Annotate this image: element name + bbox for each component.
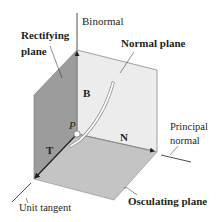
osculating-plane-label: Osculating plane — [128, 196, 207, 207]
principal-normal-label-line1: Principal — [170, 122, 208, 133]
rectifying-plane-label-line1: Rectifying — [21, 30, 69, 41]
unit-tangent-vector-label: T — [46, 145, 53, 156]
principal-normal-vector-label: N — [120, 132, 128, 143]
principal-normal-leader — [170, 146, 178, 155]
unit-tangent-axis-line — [12, 183, 31, 202]
osculating-plane-leader-2 — [126, 187, 137, 195]
rectifying-plane-label-line2: plane — [21, 46, 47, 57]
unit-tangent-label: Unit tangent — [19, 203, 71, 214]
principal-normal-label-line2: normal — [170, 136, 200, 147]
principal-normal-axis-line — [161, 155, 191, 162]
point-p-marker — [74, 131, 80, 137]
binormal-label: Binormal — [82, 16, 124, 27]
normal-plane-label: Normal plane — [121, 38, 185, 49]
binormal-vector-label: B — [83, 88, 90, 99]
point-p-label: P — [69, 120, 76, 131]
